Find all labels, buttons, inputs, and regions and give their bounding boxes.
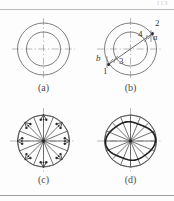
panel-c-artwork bbox=[0, 104, 87, 178]
panel-a-artwork bbox=[0, 12, 87, 86]
panel-b-label-4: 4 bbox=[138, 29, 143, 39]
figure-panel-b: 1 2 3 4 a b (b) bbox=[87, 12, 174, 98]
panel-a-centerlines bbox=[12, 18, 75, 80]
figure-panel-c: (c) bbox=[0, 104, 87, 190]
panel-b-label-2: 2 bbox=[155, 18, 160, 28]
panel-b-label-b: b bbox=[96, 53, 101, 63]
panel-b-label-1: 1 bbox=[103, 66, 108, 76]
panel-b-label-a: a bbox=[153, 32, 158, 42]
panel-b-caption: (b) bbox=[87, 82, 174, 93]
panel-c-caption: (c) bbox=[0, 174, 87, 185]
figure-panel-d: (d) bbox=[87, 104, 174, 190]
footer-rule bbox=[0, 195, 174, 196]
figure-panel-a: (a) bbox=[0, 12, 87, 98]
panel-d-hub bbox=[129, 139, 133, 143]
header-rule bbox=[0, 9, 174, 10]
panel-b-artwork: 1 2 3 4 a b bbox=[87, 12, 174, 86]
page-number: 113 bbox=[156, 0, 168, 7]
panel-d-caption: (d) bbox=[87, 174, 174, 185]
panel-d-artwork bbox=[87, 104, 174, 178]
figure-root: 113 (a) bbox=[0, 0, 174, 201]
panel-c-hub bbox=[42, 139, 46, 143]
panel-a-caption: (a) bbox=[0, 82, 87, 93]
panel-b-label-3: 3 bbox=[119, 56, 124, 66]
